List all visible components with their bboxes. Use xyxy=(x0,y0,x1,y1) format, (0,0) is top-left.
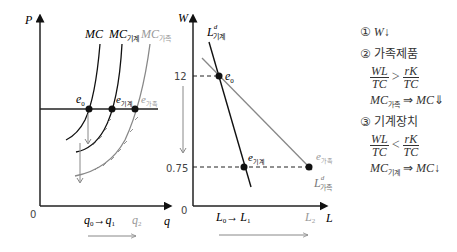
down-arrow-icon: ↓ xyxy=(384,25,390,39)
note-2-mc: MC가족 ⇒ MC⇓ xyxy=(360,92,457,108)
fraction-rk-tc: rKTC xyxy=(403,133,420,158)
note-number: ③ xyxy=(360,115,371,129)
fraction-wl-tc: WLTC xyxy=(370,65,389,90)
w-axis-label: W xyxy=(178,11,189,25)
point-e-household xyxy=(306,164,313,171)
origin-label: 0 xyxy=(181,205,187,216)
note-3-mc: MC기계 ⇒ MC↓ xyxy=(360,160,457,176)
e-household-label: e가족 xyxy=(141,93,158,108)
l2-label: L2 xyxy=(304,210,316,225)
notes-panel: ① W↓ ② 가족제품 WLTC > rKTC MC가족 ⇒ MC⇓ ③ 기계장… xyxy=(360,24,457,176)
ld-household-label: Ld가족 xyxy=(313,174,333,192)
note-number: ① xyxy=(360,25,371,39)
fraction-rk-tc: rKTC xyxy=(403,65,420,90)
note-number: ② xyxy=(360,47,371,61)
l-axis-label: L xyxy=(325,211,333,225)
note-2-inequality: WLTC > rKTC xyxy=(360,62,457,92)
note-3-heading: 기계장치 xyxy=(374,115,418,129)
less-than: < xyxy=(392,137,400,153)
tick-075: 0.75 xyxy=(166,163,188,174)
fraction-wl-tc: WLTC xyxy=(370,133,389,158)
point-e-machine xyxy=(241,164,248,171)
q-axis-label: q xyxy=(164,214,170,228)
note-2-heading: 가족제품 xyxy=(374,47,418,61)
mc-label: MC xyxy=(84,27,104,41)
left-chart: P q 0 MC MC기계 MC가족 xyxy=(24,13,172,236)
q0-q1-label: q0→q1 xyxy=(84,213,116,228)
note-2-title: ② 가족제품 xyxy=(360,46,457,62)
mc-household-label: MC가족 xyxy=(140,27,172,43)
q2-label: q2 xyxy=(132,213,142,228)
e0-label: e0 xyxy=(225,69,234,85)
down-arrow-icon: ↓ xyxy=(434,161,440,175)
point-e0 xyxy=(216,73,223,80)
double-down-arrow-icon: ⇓ xyxy=(434,93,444,107)
origin-label: 0 xyxy=(30,209,36,220)
point-e-machine xyxy=(109,106,116,113)
mc-machine-label: MC기계 xyxy=(108,27,139,43)
e-machine-label: e기계 xyxy=(116,93,133,108)
tick-12: 12 xyxy=(174,71,187,82)
point-e0 xyxy=(86,106,93,113)
mc-curve xyxy=(66,44,100,140)
e-machine-label: e기계 xyxy=(248,151,265,166)
note-1: ① W↓ xyxy=(360,24,457,40)
e0-label: e0 xyxy=(76,92,85,108)
note-1-text: W xyxy=(374,25,384,39)
note-3-inequality: WLTC < rKTC xyxy=(360,130,457,160)
ld-machine-label: Ld기계 xyxy=(206,23,225,41)
greater-than: > xyxy=(392,69,400,85)
e-household-label: e가족 xyxy=(316,150,333,165)
p-axis-label: P xyxy=(24,13,33,27)
right-chart: W L 0 12 0.75 Ld기계 Ld가족 e0 e기계 xyxy=(166,11,333,235)
note-3-title: ③ 기계장치 xyxy=(360,114,457,130)
l0-l1-label: L0→L1 xyxy=(215,210,251,225)
